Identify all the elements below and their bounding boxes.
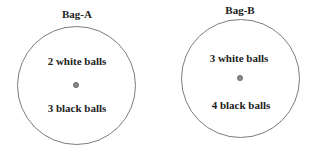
bag-a-center-dot: [73, 82, 79, 88]
bag-a-black-label: 3 black balls: [48, 102, 107, 114]
bag-a-white-label: 2 white balls: [48, 55, 107, 67]
bag-b-black-label: 4 black balls: [212, 99, 271, 111]
bag-b-title: Bag-B: [225, 4, 254, 16]
diagram: Bag-A 2 white balls 3 black balls Bag-B …: [0, 0, 314, 160]
bag-a-title: Bag-A: [62, 8, 92, 20]
bag-b-center-dot: [237, 75, 243, 81]
bag-b-white-label: 3 white balls: [210, 52, 269, 64]
